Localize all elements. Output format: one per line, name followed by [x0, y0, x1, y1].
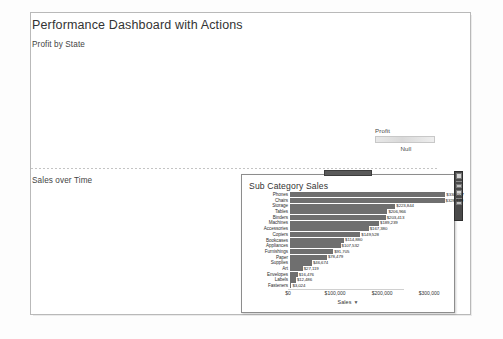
x-axis-tick-label: $200,000	[372, 290, 393, 296]
bar-category-label: Paper	[248, 255, 290, 260]
page-title: Performance Dashboard with Actions	[32, 18, 243, 32]
popup-title: Sub Category Sales	[249, 181, 328, 191]
bar-category-label: Binders	[248, 215, 290, 220]
bar[interactable]	[290, 226, 369, 231]
bar[interactable]	[290, 266, 303, 271]
legend-null-label: Null	[375, 145, 437, 152]
bar-track: $206,966	[290, 209, 448, 214]
sheet-title-sales-over-time: Sales over Time	[32, 176, 92, 185]
bar-category-label: Accessories	[248, 226, 290, 231]
bar-row[interactable]: Supplies$46,674	[248, 260, 448, 265]
x-axis-tick-label: $0	[285, 290, 291, 296]
bar[interactable]	[290, 272, 298, 277]
bar-track: $3,024	[290, 283, 448, 288]
x-axis-title-label: Sales	[337, 299, 351, 305]
profit-color-legend[interactable]: Profit Null	[375, 127, 437, 152]
bar-row[interactable]: Binders$203,413	[248, 215, 448, 220]
bar-row[interactable]: Accessories$167,380	[248, 226, 448, 231]
toolbar-divider	[456, 181, 462, 182]
bar[interactable]	[290, 260, 312, 265]
bar-category-label: Machines	[248, 220, 290, 225]
bar-row[interactable]: Tables$206,966	[248, 209, 448, 214]
bar-category-label: Phones	[248, 192, 290, 197]
bar-row[interactable]: Furnishings$91,705	[248, 249, 448, 254]
bar-row[interactable]: Fasteners$3,024	[248, 283, 448, 288]
x-axis-title[interactable]: Sales▼	[248, 299, 448, 305]
bar-row[interactable]: Art$27,119	[248, 266, 448, 271]
bar[interactable]	[290, 255, 327, 260]
bar-category-label: Copiers	[248, 232, 290, 237]
bar-value-label: $3,024	[291, 283, 305, 289]
bar-track: $12,486	[290, 277, 448, 282]
sub-category-bar-chart[interactable]: Phones$330,007Chairs$328,449Storage$223,…	[248, 192, 448, 287]
bar-category-label: Supplies	[248, 260, 290, 265]
bar-track: $78,479	[290, 255, 448, 260]
bar-track: $223,844	[290, 204, 448, 209]
drag-handle-icon[interactable]	[324, 170, 372, 176]
bar-track: $107,532	[290, 243, 448, 248]
bar[interactable]	[290, 243, 341, 248]
bar-category-label: Furnishings	[248, 249, 290, 254]
x-axis: $0$100,000$200,000$300,000	[288, 289, 448, 298]
bar-category-label: Art	[248, 266, 290, 271]
x-axis-tick-label: $300,000	[419, 290, 440, 296]
screenshot-root: Performance Dashboard with Actions Profi…	[0, 0, 503, 339]
legend-color-ramp[interactable]	[375, 136, 435, 143]
bar-category-label: Bookcases	[248, 238, 290, 243]
bar-track: $16,476	[290, 272, 448, 277]
bar[interactable]	[290, 232, 360, 237]
bar-value-label: $328,449	[445, 198, 464, 204]
bar-row[interactable]: Paper$78,479	[248, 255, 448, 260]
bar[interactable]	[290, 198, 445, 203]
bar-track: $27,119	[290, 266, 448, 271]
sort-descending-icon[interactable]: ▼	[353, 299, 358, 305]
bar-category-label: Storage	[248, 203, 290, 208]
bar[interactable]	[290, 215, 386, 220]
bar-row[interactable]: Envelopes$16,476	[248, 272, 448, 277]
bar-row[interactable]: Storage$223,844	[248, 203, 448, 208]
sub-category-sales-popup[interactable]: Sub Category Sales Phones$330,007Chairs$…	[241, 174, 455, 313]
bar-track: $328,449	[290, 198, 448, 203]
bar-category-label: Tables	[248, 209, 290, 214]
bar-track: $330,007	[290, 192, 448, 197]
bar-category-label: Chairs	[248, 198, 290, 203]
bar-row[interactable]: Chairs$328,449	[248, 198, 448, 203]
bar[interactable]	[290, 209, 387, 214]
bar[interactable]	[290, 221, 379, 226]
bar-track: $203,413	[290, 215, 448, 220]
bar-value-label: $149,528	[360, 232, 379, 238]
section-divider	[31, 168, 439, 169]
bar-track: $46,674	[290, 260, 448, 265]
x-axis-tick-label: $100,000	[325, 290, 346, 296]
bar-row[interactable]: Machines$189,239	[248, 220, 448, 225]
bar-track: $149,528	[290, 232, 448, 237]
bar-track: $114,880	[290, 238, 448, 243]
bar[interactable]	[290, 192, 445, 197]
bar-row[interactable]: Phones$330,007	[248, 192, 448, 197]
close-icon[interactable]	[456, 173, 462, 179]
bar-track: $91,705	[290, 249, 448, 254]
bar[interactable]	[290, 204, 395, 209]
bar-category-label: Appliances	[248, 243, 290, 248]
keep-only-icon[interactable]	[456, 184, 462, 188]
bar-row[interactable]: Labels$12,486	[248, 277, 448, 282]
bar-category-label: Fasteners	[248, 283, 290, 288]
bar-track: $167,380	[290, 226, 448, 231]
sheet-title-profit-by-state: Profit by State	[32, 40, 85, 49]
bar-track: $189,239	[290, 221, 448, 226]
bar-value-label: $78,479	[327, 254, 343, 260]
bar-category-label: Labels	[248, 277, 290, 282]
legend-title: Profit	[375, 127, 437, 134]
bar-category-label: Envelopes	[248, 272, 290, 277]
bar[interactable]	[290, 249, 333, 254]
bar[interactable]	[290, 238, 344, 243]
